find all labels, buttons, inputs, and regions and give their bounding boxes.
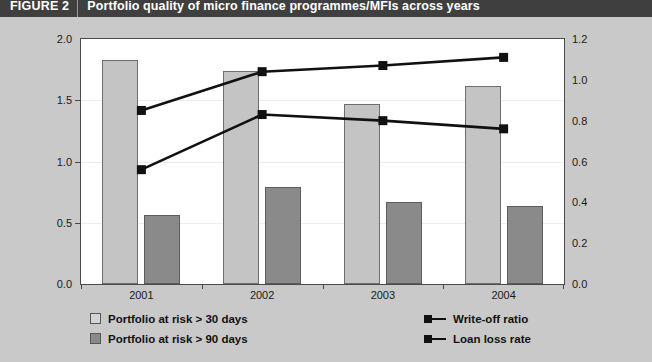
line-marker	[137, 106, 146, 115]
right-axis-ticks	[566, 38, 572, 285]
x-axis-tick-label: 2001	[129, 289, 153, 301]
legend-item[interactable]: Portfolio at risk > 30 days	[90, 310, 248, 327]
right-axis-tick-label: 0.0	[572, 279, 587, 289]
legend-item-label: Write-off ratio	[453, 313, 528, 325]
plot-inner	[81, 39, 564, 284]
x-axis-tick-label: 2004	[491, 289, 515, 301]
legend-item-label: Portfolio at risk > 90 days	[108, 333, 248, 345]
line-marker	[258, 110, 267, 119]
line-marker	[499, 124, 508, 133]
x-axis-labels: 2001200220032004	[80, 289, 565, 305]
chart-legend: Portfolio at risk > 30 daysPortfolio at …	[0, 310, 652, 358]
left-axis-tick-label: 1.5	[57, 95, 72, 105]
figure-container: FIGURE 2 Portfolio quality of micro fina…	[0, 0, 652, 362]
legend-swatch-dark-icon	[90, 333, 101, 344]
left-axis-tick-label: 0.5	[57, 218, 72, 228]
line-marker	[258, 67, 267, 76]
right-axis-tick-label: 1.0	[572, 75, 587, 85]
line-path	[141, 115, 503, 170]
legend-line-marker-icon	[424, 313, 446, 324]
figure-number-label: FIGURE 2	[0, 0, 77, 15]
right-axis-tick-label: 1.2	[572, 34, 587, 44]
chart-canvas: 0.00.51.01.52.0 0.00.20.40.60.81.01.2 20…	[0, 17, 652, 362]
x-axis-tick-label: 2002	[250, 289, 274, 301]
right-axis-tick-label: 0.2	[572, 238, 587, 248]
legend-item[interactable]: Portfolio at risk > 90 days	[90, 330, 248, 347]
left-axis-tick-label: 1.0	[57, 157, 72, 167]
legend-item[interactable]: Write-off ratio	[424, 310, 531, 327]
legend-item-label: Portfolio at risk > 30 days	[108, 313, 248, 325]
x-axis-tick-label: 2003	[371, 289, 395, 301]
line-marker	[378, 61, 387, 70]
right-axis-tick-label: 0.4	[572, 197, 587, 207]
figure-title: Portfolio quality of micro finance progr…	[78, 0, 480, 15]
legend-item[interactable]: Loan loss rate	[424, 330, 531, 347]
line-series-group	[81, 39, 564, 284]
legend-line-marker-icon	[424, 333, 446, 344]
line-path	[141, 57, 503, 110]
line-marker	[137, 165, 146, 174]
right-axis-labels: 0.00.20.40.60.81.01.2	[572, 38, 612, 285]
right-axis-tick-label: 0.8	[572, 116, 587, 126]
legend-item-label: Loan loss rate	[453, 333, 531, 345]
left-axis-tick-label: 0.0	[57, 279, 72, 289]
legend-column-bars: Portfolio at risk > 30 daysPortfolio at …	[90, 310, 248, 350]
line-marker	[499, 53, 508, 62]
left-axis-labels: 0.00.51.01.52.0	[38, 38, 72, 285]
figure-title-bar: FIGURE 2 Portfolio quality of micro fina…	[0, 0, 652, 17]
legend-column-lines: Write-off ratioLoan loss rate	[424, 310, 531, 350]
legend-swatch-light-icon	[90, 313, 101, 324]
plot-area	[80, 38, 565, 285]
left-axis-tick-label: 2.0	[57, 34, 72, 44]
line-marker	[378, 116, 387, 125]
right-axis-tick-label: 0.6	[572, 157, 587, 167]
line-series-svg	[81, 39, 564, 284]
